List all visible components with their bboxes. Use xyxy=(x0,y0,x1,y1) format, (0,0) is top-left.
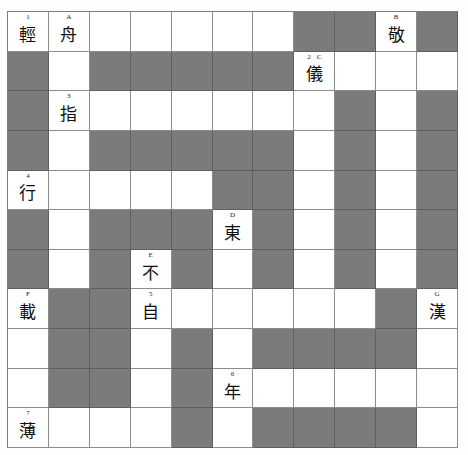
puzzle-cell[interactable]: 3指 xyxy=(49,91,90,131)
puzzle-cell[interactable] xyxy=(131,171,172,211)
puzzle-cell[interactable] xyxy=(335,369,376,409)
cell-clue-letter: D xyxy=(230,211,235,219)
puzzle-cell-blocked xyxy=(90,329,131,369)
cell-character: 行 xyxy=(8,180,48,210)
puzzle-cell[interactable] xyxy=(172,91,213,131)
puzzle-cell[interactable] xyxy=(376,52,417,92)
puzzle-cell[interactable] xyxy=(253,289,294,329)
puzzle-cell-blocked xyxy=(417,91,458,131)
puzzle-cell[interactable] xyxy=(131,369,172,409)
puzzle-cell[interactable] xyxy=(294,369,335,409)
puzzle-cell[interactable] xyxy=(49,52,90,92)
puzzle-cell-blocked xyxy=(253,329,294,369)
puzzle-cell-blocked xyxy=(172,369,213,409)
puzzle-cell[interactable] xyxy=(213,408,254,448)
puzzle-cell[interactable] xyxy=(335,289,376,329)
puzzle-cell[interactable] xyxy=(417,52,458,92)
puzzle-cell-blocked xyxy=(417,250,458,290)
puzzle-cell[interactable] xyxy=(417,369,458,409)
puzzle-cell[interactable] xyxy=(417,329,458,369)
puzzle-cell[interactable] xyxy=(131,91,172,131)
puzzle-cell[interactable] xyxy=(253,91,294,131)
puzzle-cell[interactable]: D東 xyxy=(213,210,254,250)
puzzle-cell[interactable] xyxy=(213,289,254,329)
puzzle-cell[interactable] xyxy=(90,12,131,52)
puzzle-cell[interactable] xyxy=(294,91,335,131)
puzzle-cell[interactable] xyxy=(131,12,172,52)
puzzle-cell-blocked xyxy=(90,131,131,171)
puzzle-cell-blocked xyxy=(376,329,417,369)
puzzle-cell[interactable] xyxy=(213,12,254,52)
puzzle-cell[interactable]: A舟 xyxy=(49,12,90,52)
puzzle-cell[interactable] xyxy=(376,131,417,171)
puzzle-cell-blocked xyxy=(172,52,213,92)
puzzle-cell[interactable] xyxy=(131,408,172,448)
puzzle-cell[interactable] xyxy=(49,210,90,250)
puzzle-cell[interactable] xyxy=(376,369,417,409)
puzzle-cell-blocked xyxy=(253,408,294,448)
cell-clue-letter: E xyxy=(149,251,153,259)
puzzle-cell[interactable]: 5自 xyxy=(131,289,172,329)
puzzle-cell[interactable] xyxy=(253,369,294,409)
puzzle-cell-blocked xyxy=(253,210,294,250)
cell-clue-number: 1 xyxy=(26,13,30,21)
puzzle-cell[interactable] xyxy=(294,289,335,329)
puzzle-cell[interactable] xyxy=(49,131,90,171)
puzzle-cell[interactable] xyxy=(49,171,90,211)
puzzle-cell[interactable] xyxy=(8,369,49,409)
puzzle-cell[interactable] xyxy=(294,210,335,250)
puzzle-cell-blocked xyxy=(335,131,376,171)
puzzle-cell-blocked xyxy=(253,171,294,211)
puzzle-cell[interactable]: F載 xyxy=(8,289,49,329)
puzzle-cell[interactable] xyxy=(213,250,254,290)
puzzle-cell-blocked xyxy=(90,210,131,250)
puzzle-cell[interactable] xyxy=(376,91,417,131)
puzzle-cell[interactable] xyxy=(417,408,458,448)
puzzle-cell-blocked xyxy=(376,289,417,329)
puzzle-cell[interactable] xyxy=(90,171,131,211)
puzzle-cell[interactable] xyxy=(172,171,213,211)
puzzle-cell[interactable]: 4行 xyxy=(8,171,49,211)
puzzle-cell[interactable] xyxy=(49,250,90,290)
puzzle-cell[interactable]: 2C儀 xyxy=(294,52,335,92)
puzzle-cell-blocked xyxy=(131,131,172,171)
puzzle-cell[interactable] xyxy=(253,12,294,52)
cell-clue-number: 7 xyxy=(26,409,30,417)
puzzle-cell[interactable] xyxy=(172,12,213,52)
puzzle-cell[interactable] xyxy=(335,52,376,92)
puzzle-cell-blocked xyxy=(172,250,213,290)
puzzle-cell-blocked xyxy=(253,250,294,290)
puzzle-cell[interactable] xyxy=(131,329,172,369)
puzzle-cell[interactable] xyxy=(172,289,213,329)
puzzle-cell[interactable] xyxy=(294,250,335,290)
cell-clue-letter: A xyxy=(66,13,71,21)
puzzle-cell[interactable] xyxy=(90,91,131,131)
puzzle-cell[interactable] xyxy=(376,171,417,211)
puzzle-cell[interactable]: E不 xyxy=(131,250,172,290)
puzzle-cell[interactable]: G漢 xyxy=(417,289,458,329)
puzzle-cell-blocked xyxy=(8,91,49,131)
puzzle-cell[interactable] xyxy=(213,91,254,131)
puzzle-cell-blocked xyxy=(172,408,213,448)
crossword-puzzle: 1輕A舟B敬2C儀3指4行D東E不F載5自G漢6年7薄 xyxy=(0,0,468,455)
puzzle-cell-blocked xyxy=(335,408,376,448)
puzzle-cell-blocked xyxy=(253,52,294,92)
puzzle-cell-blocked xyxy=(417,12,458,52)
puzzle-cell[interactable]: 7薄 xyxy=(8,408,49,448)
puzzle-cell[interactable] xyxy=(376,210,417,250)
puzzle-cell-blocked xyxy=(49,369,90,409)
puzzle-cell[interactable] xyxy=(376,250,417,290)
puzzle-cell[interactable] xyxy=(294,131,335,171)
puzzle-cell[interactable]: B敬 xyxy=(376,12,417,52)
puzzle-cell[interactable] xyxy=(49,408,90,448)
puzzle-cell-blocked xyxy=(213,131,254,171)
puzzle-cell[interactable]: 1輕 xyxy=(8,12,49,52)
puzzle-cell[interactable] xyxy=(294,171,335,211)
cell-character: 年 xyxy=(213,378,253,408)
cell-character: 載 xyxy=(8,298,48,328)
puzzle-cell[interactable]: 6年 xyxy=(213,369,254,409)
puzzle-cell[interactable] xyxy=(8,329,49,369)
puzzle-cell[interactable] xyxy=(213,329,254,369)
cell-character: 自 xyxy=(131,298,171,328)
puzzle-cell[interactable] xyxy=(90,408,131,448)
